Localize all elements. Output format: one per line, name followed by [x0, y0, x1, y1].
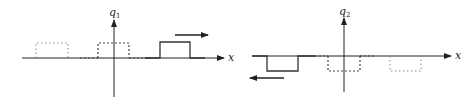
pulse-dotted-left [36, 43, 68, 58]
pulse-dotted-right [390, 56, 421, 71]
x-axis-label-left: x [228, 51, 235, 64]
y-axis-label-q1: q1 [109, 6, 121, 20]
panel-q2: q2 x [250, 5, 462, 92]
y-axis-label-q2: q2 [339, 5, 351, 19]
x-axis-label-right: x [455, 49, 462, 62]
panel-q1: q1 x [22, 6, 235, 97]
wave-diagram: q1 x q2 x [0, 0, 476, 101]
pulse-solid-right [252, 56, 315, 71]
pulse-solid-left [145, 42, 205, 58]
